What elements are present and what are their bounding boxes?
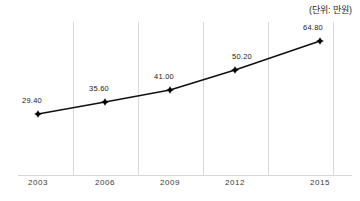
data-label-2006: 35.60 <box>89 84 109 93</box>
data-label-2009: 41.00 <box>154 72 174 81</box>
series-markers <box>35 38 324 118</box>
x-tick-2006: 2006 <box>95 178 115 187</box>
x-tick-2015: 2015 <box>310 178 330 187</box>
x-tick-2012: 2012 <box>225 178 245 187</box>
data-point-cross <box>232 67 239 74</box>
line-chart: (단위: 만원) 29.4035.6041.0050.2064.80 2003 … <box>0 0 360 201</box>
data-label-2012: 50.20 <box>232 52 252 61</box>
data-label-2015: 64.80 <box>303 23 323 32</box>
data-point-cross <box>35 111 42 118</box>
data-point-cross <box>102 99 109 106</box>
x-axis-tick-labels: 2003 2006 2009 2012 2015 <box>0 178 360 198</box>
x-tick-2009: 2009 <box>160 178 180 187</box>
x-tick-2003: 2003 <box>28 178 48 187</box>
data-label-2003: 29.40 <box>22 96 42 105</box>
series-line <box>38 41 320 114</box>
data-point-cross <box>317 38 324 45</box>
data-point-cross <box>167 87 174 94</box>
